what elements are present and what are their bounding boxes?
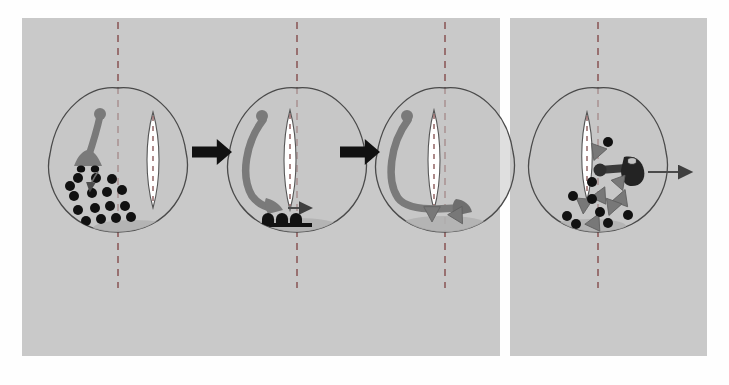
secretory-granule: [603, 218, 613, 228]
contact-zone-shadow: [402, 216, 486, 232]
head-pore: [628, 158, 637, 165]
secretory-granule: [126, 212, 136, 222]
cell-stage-1: [48, 22, 187, 288]
cell-stage-3: [375, 22, 514, 288]
secretory-granule: [111, 213, 121, 223]
stage-1-to-2: [192, 139, 232, 165]
secretory-granule: [562, 211, 572, 221]
cell-outline: [48, 88, 187, 232]
secretory-granule: [105, 201, 115, 211]
secretory-granule: [120, 201, 130, 211]
figure-canvas: [0, 0, 729, 385]
organelle-knob: [94, 108, 106, 120]
secretory-granule: [568, 191, 578, 201]
secretory-granule: [69, 191, 79, 201]
organelle-knob: [594, 164, 607, 177]
secretory-granule: [117, 185, 127, 195]
secretory-granule: [81, 216, 91, 226]
organelle-knob: [256, 110, 268, 122]
cell-stage-4: [528, 22, 690, 288]
foot-vesicle-right: [91, 165, 99, 172]
secretory-granule: [587, 194, 597, 204]
secretory-granule: [587, 177, 597, 187]
diagram-artwork: [0, 0, 729, 385]
secretory-granule: [107, 174, 117, 184]
secretory-granule: [595, 207, 605, 217]
docked-vesicle-base: [258, 223, 312, 227]
secretory-granule: [90, 203, 100, 213]
secretory-granule: [102, 187, 112, 197]
organelle-knob: [401, 110, 413, 122]
secretory-granule: [603, 137, 613, 147]
secretory-granule: [571, 219, 581, 229]
secretory-granule: [73, 173, 83, 183]
secretory-granule: [87, 188, 97, 198]
foot-vesicle-left: [77, 165, 85, 172]
secretory-granule: [96, 214, 106, 224]
secretory-granule: [73, 205, 83, 215]
secretory-granule: [623, 210, 633, 220]
contact-zone-shadow: [93, 220, 173, 236]
secretory-granule: [65, 181, 75, 191]
